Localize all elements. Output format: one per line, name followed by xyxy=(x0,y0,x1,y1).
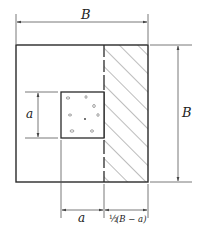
label-right-B: B xyxy=(181,105,192,120)
label-top-B: B xyxy=(80,7,91,22)
label-bottom-strip: (B − a) xyxy=(116,214,146,224)
hatched-strip xyxy=(104,45,148,182)
foundation-diagram: B B a a ½ (B − a) xyxy=(0,0,200,234)
diagram-svg: B B a a ½ (B − a) xyxy=(0,0,200,234)
label-left-a: a xyxy=(26,107,33,121)
inner-column xyxy=(61,92,104,138)
label-bottom-a: a xyxy=(78,211,85,225)
